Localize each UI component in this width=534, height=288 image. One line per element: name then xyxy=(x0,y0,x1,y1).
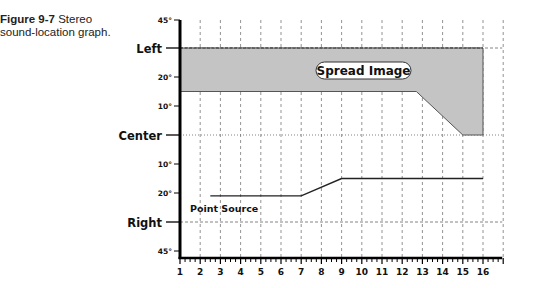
x-tick-label: 8 xyxy=(318,267,324,277)
x-tick-label: 3 xyxy=(217,267,223,277)
x-tick-label: 12 xyxy=(396,267,409,277)
x-tick-label: 9 xyxy=(338,267,344,277)
y-tick-label: 45° xyxy=(158,247,172,256)
spread-image-area xyxy=(180,48,483,135)
x-tick-label: 5 xyxy=(258,267,264,277)
x-tick-label: 4 xyxy=(237,267,243,277)
x-tick-label: 13 xyxy=(416,267,429,277)
y-tick-label: 10° xyxy=(158,160,172,169)
y-tick-label: 45° xyxy=(158,16,172,25)
x-tick-label: 6 xyxy=(278,267,284,277)
point-source-label: Point Source xyxy=(190,203,258,214)
y-tick-label: Left xyxy=(136,42,162,56)
x-tick-label: 15 xyxy=(457,267,470,277)
y-tick-label: 10° xyxy=(158,102,172,111)
y-tick-label: Right xyxy=(127,216,162,230)
x-tick-label: 2 xyxy=(197,267,203,277)
x-tick-label: 11 xyxy=(376,267,389,277)
x-tick-label: 16 xyxy=(477,267,490,277)
spread-image-label: Spread Image xyxy=(317,64,411,78)
sound-location-chart: Spread ImagePoint Source45°Left20°10°Cen… xyxy=(0,0,534,288)
y-tick-label: 20° xyxy=(158,189,172,198)
point-source-line xyxy=(210,179,483,196)
x-tick-label: 14 xyxy=(436,267,449,277)
y-tick-label: Center xyxy=(119,129,163,143)
x-tick-label: 10 xyxy=(356,267,369,277)
x-tick-label: 7 xyxy=(298,267,304,277)
y-tick-label: 20° xyxy=(158,73,172,82)
x-tick-label: 1 xyxy=(177,267,183,277)
